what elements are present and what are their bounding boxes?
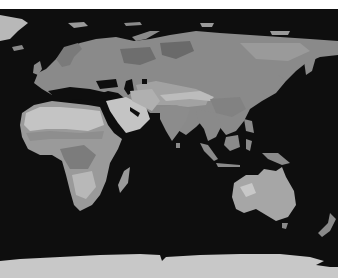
antarctica xyxy=(0,254,338,278)
sulawesi xyxy=(246,139,252,151)
new-guinea xyxy=(262,153,290,165)
severnaya xyxy=(200,23,214,27)
madagascar xyxy=(118,167,130,193)
tasmania xyxy=(282,223,288,229)
iceland xyxy=(12,45,24,51)
java xyxy=(216,163,240,167)
map-canvas xyxy=(0,9,338,278)
new-siberian xyxy=(270,31,290,35)
world-map xyxy=(0,9,338,278)
philippines xyxy=(244,119,254,133)
sumatra xyxy=(200,143,218,161)
sri-lanka xyxy=(176,143,180,148)
australia xyxy=(232,167,296,221)
new-zealand xyxy=(318,213,336,237)
borneo xyxy=(224,135,240,151)
sahara xyxy=(24,107,104,131)
aral-sea xyxy=(142,79,147,84)
franz-josef xyxy=(124,22,142,26)
svalbard xyxy=(68,22,88,28)
greenland xyxy=(0,15,28,41)
